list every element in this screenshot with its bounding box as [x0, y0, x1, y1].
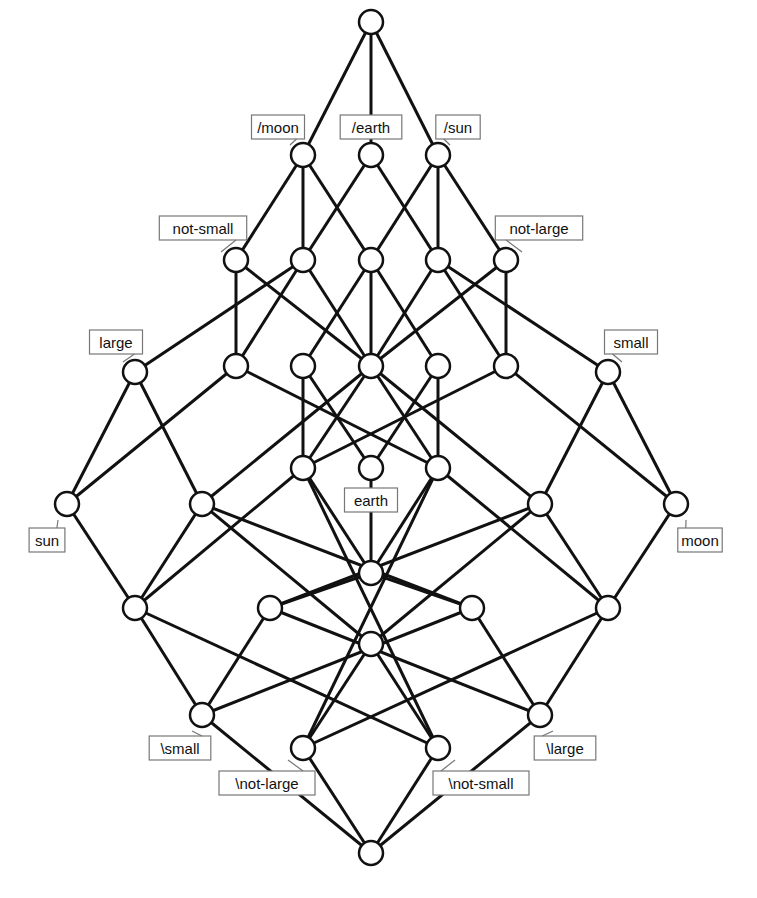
label-leader	[192, 731, 202, 736]
lattice-node	[359, 248, 383, 272]
lattice-node	[291, 354, 315, 378]
label-text: \large	[546, 740, 584, 757]
lattice-node	[426, 354, 450, 378]
lattice-edge	[202, 504, 371, 644]
label-text: small	[613, 334, 648, 351]
lattice-edge	[236, 260, 371, 366]
lattice-node-not-small-inv	[426, 736, 450, 760]
lattice-node-large	[123, 360, 147, 384]
label-text: /earth	[352, 119, 390, 136]
lattice-node	[359, 841, 383, 865]
lattice-node-sun-inv	[426, 143, 450, 167]
lattice-node	[426, 456, 450, 480]
label-text: moon	[681, 532, 719, 549]
node-label-sun-inv: /sun	[436, 115, 480, 145]
lattice-node-moon	[664, 492, 688, 516]
lattice-edge	[236, 155, 303, 260]
lattice-edge	[202, 608, 472, 715]
lattice-node-not-small	[224, 248, 248, 272]
node-label-large-inv: \large	[534, 731, 596, 760]
lattice-node-large-inv	[528, 703, 552, 727]
lattice-node	[460, 596, 484, 620]
lattice-edge	[371, 504, 540, 644]
lattice-node	[291, 456, 315, 480]
lattice-edge	[608, 372, 676, 504]
lattice-node	[224, 354, 248, 378]
lattice-edge	[608, 504, 676, 608]
lattice-edge	[202, 608, 270, 715]
label-text: earth	[354, 492, 388, 509]
lattice-node-small-inv	[190, 703, 214, 727]
lattice-edge	[67, 366, 236, 504]
lattice-node	[258, 596, 282, 620]
lattice-node-earth	[359, 456, 383, 480]
concept-lattice-diagram: /moon/earth/sunnot-smallnot-largelargesm…	[0, 0, 757, 898]
lattice-edge	[540, 372, 608, 504]
lattice-node	[359, 10, 383, 34]
lattice-node-sun	[55, 492, 79, 516]
lattice-edge	[438, 260, 608, 372]
lattice-node-not-large-inv	[291, 736, 315, 760]
label-leader	[441, 760, 455, 771]
lattice-node-moon-inv	[291, 143, 315, 167]
lattice-node-earth-inv	[359, 143, 383, 167]
lattice-edge	[67, 372, 135, 504]
lattice-node	[596, 596, 620, 620]
lattice-edge	[540, 504, 608, 608]
node-label-not-large: not-large	[495, 216, 582, 252]
node-label-small-inv: \small	[149, 731, 211, 760]
lattice-node	[190, 492, 214, 516]
node-label-large: large	[90, 330, 143, 362]
lattice-edge	[303, 748, 371, 853]
node-label-not-large-inv: \not-large	[219, 760, 315, 795]
lattice-node-not-large	[494, 248, 518, 272]
lattice-node	[528, 492, 552, 516]
node-label-not-small-inv: \not-small	[433, 760, 529, 795]
node-label-sun: sun	[29, 520, 65, 552]
lattice-edge	[371, 260, 506, 366]
lattice-edge	[438, 155, 506, 260]
lattice-node	[359, 561, 383, 585]
lattice-edge	[236, 260, 303, 366]
label-text: not-large	[509, 220, 568, 237]
lattice-node	[359, 354, 383, 378]
node-label-earth-inv: /earth	[340, 115, 402, 139]
lattice-node	[123, 596, 147, 620]
node-labels: /moon/earth/sunnot-smallnot-largelargesm…	[29, 115, 722, 795]
label-text: /moon	[257, 119, 299, 136]
node-label-moon-inv: /moon	[252, 115, 305, 145]
lattice-edge	[472, 608, 540, 715]
label-text: \small	[160, 740, 199, 757]
lattice-node	[426, 248, 450, 272]
lattice-edge	[67, 504, 135, 608]
label-leader	[57, 520, 58, 528]
lattice-edge	[438, 260, 506, 366]
label-text: /sun	[444, 119, 472, 136]
lattice-node	[291, 248, 315, 272]
label-leader	[288, 760, 303, 771]
label-leader	[542, 731, 553, 736]
label-text: large	[99, 334, 132, 351]
lattice-node	[359, 632, 383, 656]
node-label-earth: earth	[345, 488, 398, 512]
label-text: \not-small	[448, 775, 513, 792]
lattice-edge	[506, 366, 676, 504]
lattice-edge	[135, 504, 202, 608]
node-label-small: small	[605, 330, 658, 362]
lattice-edge	[371, 748, 438, 853]
label-text: \not-large	[235, 775, 298, 792]
node-label-not-small: not-small	[159, 216, 246, 252]
label-text: sun	[35, 532, 59, 549]
node-label-moon: moon	[678, 520, 722, 552]
lattice-edge	[135, 260, 303, 372]
lattice-node	[494, 354, 518, 378]
label-text: not-small	[173, 220, 234, 237]
lattice-node-small	[596, 360, 620, 384]
lattice-edge	[135, 372, 202, 504]
